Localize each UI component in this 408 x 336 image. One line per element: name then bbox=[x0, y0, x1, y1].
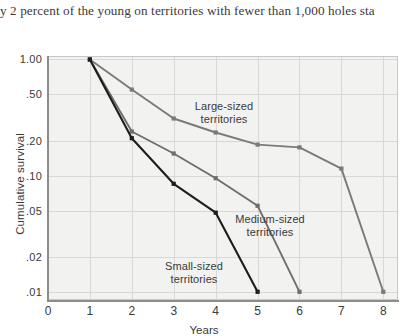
series-data-point bbox=[88, 57, 92, 61]
series-data-point bbox=[297, 290, 301, 294]
series-annotation-small: Small-sized territories bbox=[146, 260, 242, 286]
y-axis-title: Cumulative survival bbox=[14, 104, 26, 264]
series-data-point bbox=[214, 176, 218, 180]
series-data-point bbox=[256, 143, 260, 147]
y-tick-label: .20 bbox=[0, 135, 42, 147]
series-annotation-large: Large-sized territories bbox=[176, 100, 272, 126]
x-tick-label: 8 bbox=[371, 304, 395, 318]
series-data-point bbox=[256, 204, 260, 208]
series-line bbox=[90, 60, 383, 292]
series-annotation-medium: Medium-sized territories bbox=[222, 213, 318, 239]
series-data-point bbox=[130, 136, 134, 140]
x-tick-label: 7 bbox=[329, 304, 353, 318]
x-tick-label: 0 bbox=[36, 304, 60, 318]
y-tick-label: .02 bbox=[0, 251, 42, 263]
x-tick-label: 4 bbox=[204, 304, 228, 318]
y-tick-label: 1.00 bbox=[0, 53, 42, 65]
x-tick-label: 3 bbox=[162, 304, 186, 318]
x-tick-label: 6 bbox=[287, 304, 311, 318]
series-line bbox=[90, 60, 258, 292]
series-data-point bbox=[214, 130, 218, 134]
x-axis-title: Years bbox=[0, 324, 408, 336]
series-data-point bbox=[297, 145, 301, 149]
series-data-point bbox=[256, 290, 260, 294]
series-data-point bbox=[172, 182, 176, 186]
series-data-point bbox=[214, 211, 218, 215]
series-data-point bbox=[381, 290, 385, 294]
series-data-point bbox=[172, 151, 176, 155]
x-tick-label: 1 bbox=[78, 304, 102, 318]
y-tick-label: .05 bbox=[0, 205, 42, 217]
y-tick-label: .50 bbox=[0, 88, 42, 100]
page-body-text: y 2 percent of the young on territories … bbox=[0, 2, 408, 19]
series-data-point bbox=[130, 129, 134, 133]
survival-chart-figure: Cumulative survival Years Large-sized te… bbox=[0, 40, 408, 325]
series-data-point bbox=[130, 88, 134, 92]
y-tick-label: .01 bbox=[0, 286, 42, 298]
series-data-point bbox=[339, 167, 343, 171]
x-tick-label: 5 bbox=[246, 304, 270, 318]
x-tick-label: 2 bbox=[120, 304, 144, 318]
y-tick-label: .10 bbox=[0, 170, 42, 182]
series-line bbox=[90, 60, 300, 292]
